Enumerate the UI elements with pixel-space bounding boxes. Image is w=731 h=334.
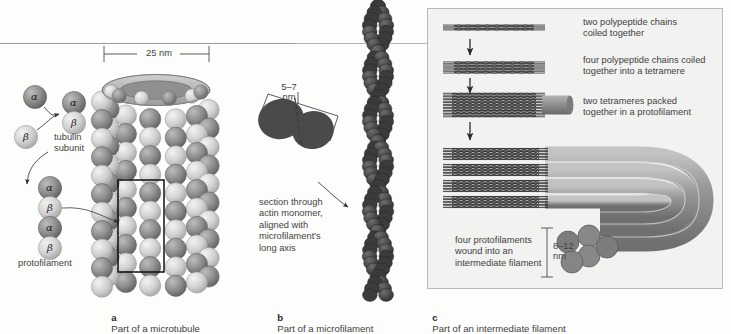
caption-b-letter: b xyxy=(277,312,283,323)
tubulin-sphere xyxy=(140,127,161,148)
tubulin-sphere xyxy=(165,275,186,296)
caption-c-text: Part of an intermediate filament xyxy=(432,323,565,334)
glyph-proto-beta-2: β xyxy=(47,242,53,253)
arrow-beta-to-dimer xyxy=(37,114,58,130)
tubulin-sphere-inner xyxy=(194,85,208,99)
tubulin-sphere xyxy=(140,146,161,167)
arrow-alpha-to-dimer xyxy=(44,107,59,115)
glyph-proto-alpha-2: α xyxy=(46,222,53,233)
glyph-beta-free: β xyxy=(23,131,29,142)
actin-monomer-bead xyxy=(363,289,378,302)
dimension-label-25nm: 25 nm xyxy=(137,48,181,58)
microtubule-lattice xyxy=(91,85,219,297)
tubulin-sphere xyxy=(165,183,186,204)
tubulin-sphere-inner xyxy=(112,89,126,103)
microtubule-top-ring xyxy=(102,75,210,106)
glyph-dimer-alpha: α xyxy=(70,97,77,108)
tubulin-sphere xyxy=(165,238,186,259)
tubulin-sphere xyxy=(91,165,112,186)
step-2-label: four polypeptide chains coiled together … xyxy=(583,55,706,78)
tubulin-sphere xyxy=(91,147,112,168)
tubulin-sphere xyxy=(140,183,161,204)
caption-a-text: Part of a microtubule xyxy=(111,323,200,334)
caption-panel-a: a Part of a microtubule xyxy=(106,301,200,334)
tubulin-sphere xyxy=(165,201,186,222)
tubulin-sphere xyxy=(165,257,186,278)
actin-monomer-bead xyxy=(379,289,394,302)
glyph-alpha-free: α xyxy=(31,91,38,102)
tubulin-sphere xyxy=(140,275,161,296)
tubulin-subunit-label: tubulin subunit xyxy=(54,132,84,155)
tubulin-sphere xyxy=(165,220,186,241)
protofilament-rod-cap xyxy=(542,96,573,115)
tubulin-sphere xyxy=(140,201,161,222)
tubulin-sphere xyxy=(140,257,161,278)
tubulin-sphere xyxy=(91,110,112,131)
tubulin-sphere xyxy=(140,164,161,185)
tubulin-sphere xyxy=(140,220,161,241)
tubulin-sphere xyxy=(140,238,161,259)
actin-monomer-section xyxy=(254,95,337,153)
tubulin-sphere xyxy=(91,128,112,149)
caption-panel-c: c Part of an intermediate filament xyxy=(427,301,566,334)
tubulin-sphere xyxy=(165,127,186,148)
protofilament-label: protofilament xyxy=(18,258,72,269)
tubulin-sphere-inner xyxy=(134,91,148,105)
caption-a-letter: a xyxy=(111,312,116,323)
caption-c-letter: c xyxy=(432,312,437,323)
tubulin-sphere xyxy=(165,164,186,185)
panel-b-microfilament xyxy=(254,0,393,301)
tubulin-sphere-inner xyxy=(162,91,176,105)
tubulin-sphere xyxy=(91,258,112,279)
caption-b-text: Part of a microfilament xyxy=(277,323,373,334)
caption-panel-b: b Part of a microfilament xyxy=(272,301,373,334)
glyph-proto-beta-1: β xyxy=(47,202,53,213)
step-1-label: two polypeptide chains coiled together xyxy=(583,17,677,40)
step-3-label: two tetrameres packed together in a prot… xyxy=(583,96,691,119)
step-4-label: four protofilaments wound into an interm… xyxy=(455,235,541,269)
tubulin-sphere xyxy=(91,184,112,205)
tubulin-sphere xyxy=(165,109,186,130)
tubulin-sphere xyxy=(91,276,112,297)
tubulin-sphere xyxy=(165,146,186,167)
tubulin-sphere xyxy=(91,239,112,260)
glyph-dimer-beta: β xyxy=(71,117,77,128)
glyph-proto-alpha-1: α xyxy=(46,182,53,193)
actin-section-note: section through actin monomer, aligned w… xyxy=(259,197,323,254)
dimension-label-8-12nm: 8–12 nm xyxy=(553,241,587,261)
tubulin-sphere xyxy=(140,109,161,130)
tubulin-sphere xyxy=(91,221,112,242)
tubulin-sphere xyxy=(186,272,207,293)
dimension-label-5-7nm: 5–7 nm xyxy=(268,82,310,102)
